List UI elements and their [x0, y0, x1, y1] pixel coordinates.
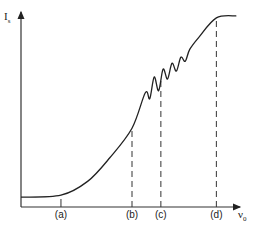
y-axis-label: Is	[4, 10, 11, 25]
x-axis-label: ν0	[238, 208, 247, 223]
marker-label-3: (d)	[210, 209, 222, 220]
intensity-curve	[21, 16, 236, 197]
diagram-canvas: Is ν0 (a)(b)(c)(d)	[0, 0, 253, 225]
marker-label-1: (b)	[126, 209, 138, 220]
marker-label-0: (a)	[55, 209, 67, 220]
marker-label-2: (c)	[155, 209, 167, 220]
